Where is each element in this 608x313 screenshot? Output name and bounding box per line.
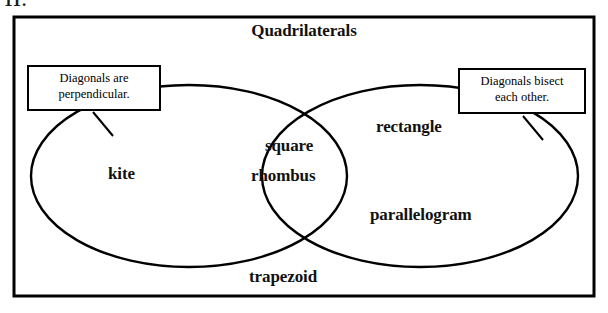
label-rectangle: rectangle <box>376 118 442 136</box>
universal-set-rectangle <box>14 17 594 296</box>
label-kite: kite <box>108 165 135 183</box>
callout-line-2: perpendicular. <box>29 87 159 103</box>
callout-line-1: Diagonals bisect <box>481 74 564 88</box>
callout-diagonals-bisect: Diagonals bisect each other. <box>458 68 586 114</box>
label-square: square <box>265 137 313 155</box>
label-rhombus: rhombus <box>251 167 316 185</box>
callout-diagonals-perpendicular: Diagonals are perpendicular. <box>27 65 161 111</box>
callout-line-1: Diagonals are <box>59 71 128 85</box>
callout-line-2: each other. <box>460 90 584 106</box>
label-parallelogram: parallelogram <box>370 206 472 224</box>
venn-diagram-figure: 11. Quadrilaterals kite square rhombus r… <box>0 0 608 313</box>
universal-set-title: Quadrilaterals <box>0 22 608 40</box>
label-trapezoid: trapezoid <box>249 268 317 286</box>
